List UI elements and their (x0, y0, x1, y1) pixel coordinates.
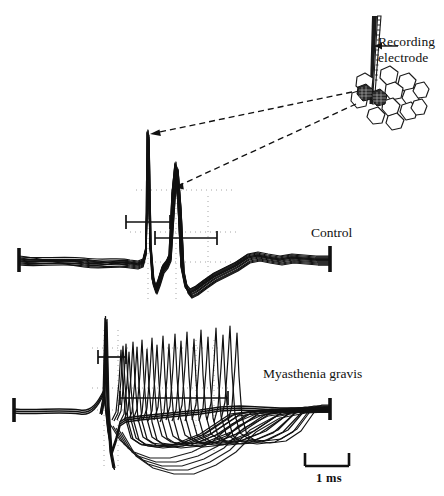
myasthenia-gravis-label: Myasthenia gravis (263, 366, 362, 382)
interval-bar-control-2 (155, 231, 217, 245)
recording-electrode-label-line2: electrode (378, 50, 428, 65)
control-sweeps (19, 130, 330, 298)
interval-bar-control-1 (126, 215, 170, 229)
scale-bar-icon (305, 453, 349, 466)
panel-myasthenia-gravis (14, 316, 330, 474)
panel-control (19, 130, 330, 300)
scale-bar-label: 1 ms (316, 471, 342, 486)
recording-electrode-label: Recordingelectrode (378, 34, 435, 65)
dashed-leader-line-icon (155, 92, 356, 186)
recording-electrode-label-line1: Recording (378, 34, 435, 49)
sfemg-figure: Recordingelectrode Control Myasthenia gr… (0, 0, 444, 496)
control-label: Control (311, 225, 352, 241)
figure-canvas (0, 0, 444, 496)
mg-jitter-sweeps (112, 326, 330, 448)
